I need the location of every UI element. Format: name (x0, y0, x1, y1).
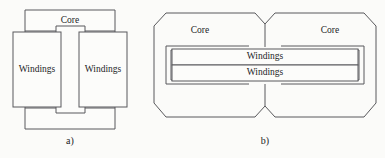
panel-a-winding-right-label: Windings (85, 64, 122, 74)
panel-b-group: Core Core Windings Windings b) (154, 13, 376, 147)
panel-b-winding-bottom-label: Windings (247, 67, 284, 77)
panel-b-winding-top-label: Windings (247, 51, 284, 61)
panel-a-caption: a) (66, 135, 74, 147)
figure-root: Core Windings Windings a) (0, 0, 385, 158)
panel-b-core-left-label: Core (191, 25, 209, 35)
panel-b-core-right-label: Core (321, 25, 339, 35)
panel-a-group: Core Windings Windings a) (13, 10, 127, 147)
panel-b-caption: b) (261, 135, 269, 147)
panel-a-winding-left-label: Windings (19, 64, 56, 74)
panel-a-core-label: Core (61, 15, 79, 25)
diagram-canvas: Core Windings Windings a) (0, 0, 385, 158)
